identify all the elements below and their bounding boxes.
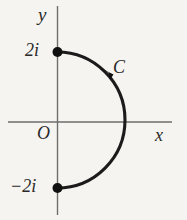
x-axis-label: x — [155, 126, 163, 144]
complex-plane-figure: y x O 2i −2i C — [0, 0, 187, 220]
endpoint-dot-lower — [53, 183, 63, 193]
endpoint-dot-upper — [53, 47, 63, 57]
tick-label-lower-minus-2i: −2i — [10, 177, 36, 195]
curve-label-c: C — [113, 58, 125, 76]
origin-label: O — [37, 124, 50, 142]
tick-label-upper-2i: 2i — [25, 41, 39, 59]
y-axis-label: y — [38, 5, 46, 24]
